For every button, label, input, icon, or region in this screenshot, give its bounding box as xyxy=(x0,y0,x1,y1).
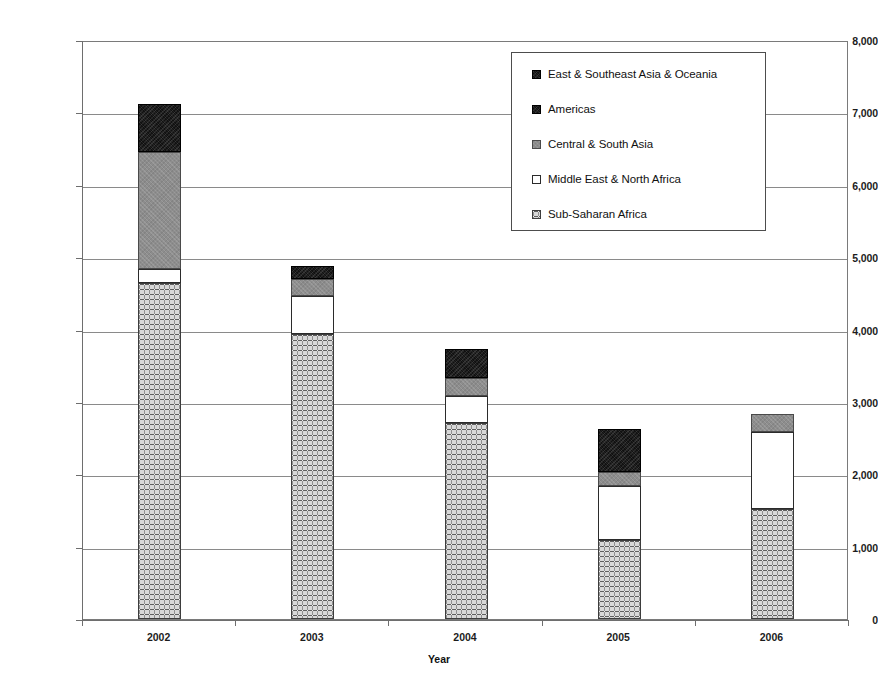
y-tick-label: 4,000 xyxy=(812,325,878,337)
y-tick-mark xyxy=(76,403,83,404)
legend-swatch-icon xyxy=(532,210,541,219)
y-tick-mark xyxy=(76,113,83,114)
x-tick-mark xyxy=(695,620,696,626)
x-tick-mark xyxy=(235,620,236,626)
y-tick-mark xyxy=(76,548,83,549)
y-tick-mark xyxy=(76,475,83,476)
legend: East & Southeast Asia & OceaniaAmericasC… xyxy=(511,52,766,231)
y-tick-label: 2,000 xyxy=(812,469,878,481)
legend-item[interactable]: Americas xyxy=(532,101,596,117)
bar-segment[interactable] xyxy=(598,429,641,472)
bar-segment[interactable] xyxy=(598,540,641,619)
x-tick-mark xyxy=(388,620,389,626)
bar-segment[interactable] xyxy=(445,396,488,423)
bar-segment[interactable] xyxy=(445,378,488,396)
bar-segment[interactable] xyxy=(445,349,488,378)
y-tick-mark xyxy=(76,258,83,259)
legend-label: Sub-Saharan Africa xyxy=(548,208,647,220)
legend-item[interactable]: East & Southeast Asia & Oceania xyxy=(532,66,717,82)
x-tick-mark xyxy=(848,620,849,626)
x-tick-label: 2002 xyxy=(99,631,219,643)
x-tick-label: 2003 xyxy=(252,631,372,643)
legend-label: Middle East & North Africa xyxy=(548,173,681,185)
bar-segment[interactable] xyxy=(138,152,181,269)
legend-item[interactable]: Sub-Saharan Africa xyxy=(532,206,647,222)
legend-item[interactable]: Middle East & North Africa xyxy=(532,171,681,187)
legend-item[interactable]: Central & South Asia xyxy=(532,136,653,152)
y-tick-label: 6,000 xyxy=(812,180,878,192)
bar-segment[interactable] xyxy=(598,472,641,486)
bar-segment[interactable] xyxy=(751,432,794,509)
bar-2003[interactable] xyxy=(291,40,334,619)
bar-segment[interactable] xyxy=(291,334,334,619)
bar-segment[interactable] xyxy=(138,283,181,619)
legend-swatch-icon xyxy=(532,140,541,149)
x-tick-label: 2006 xyxy=(711,631,831,643)
y-tick-mark xyxy=(76,331,83,332)
bar-segment[interactable] xyxy=(751,509,794,619)
x-tick-label: 2005 xyxy=(558,631,678,643)
x-tick-label: 2004 xyxy=(405,631,525,643)
bar-segment[interactable] xyxy=(291,279,334,296)
y-tick-label: 3,000 xyxy=(812,397,878,409)
y-tick-label: 7,000 xyxy=(812,107,878,119)
legend-swatch-icon xyxy=(532,105,541,114)
y-tick-label: 0 xyxy=(812,614,878,626)
legend-label: East & Southeast Asia & Oceania xyxy=(548,68,717,80)
y-tick-label: 8,000 xyxy=(812,35,878,47)
bar-segment[interactable] xyxy=(291,296,334,334)
stacked-bar-chart: 8,0007,0006,0005,0004,0003,0002,0001,000… xyxy=(0,0,878,674)
y-tick-mark xyxy=(76,41,83,42)
bar-segment[interactable] xyxy=(138,104,181,152)
bar-segment[interactable] xyxy=(751,414,794,432)
x-axis-line xyxy=(82,620,849,621)
bar-segment[interactable] xyxy=(291,266,334,279)
y-tick-label: 5,000 xyxy=(812,252,878,264)
x-tick-mark xyxy=(542,620,543,626)
x-axis-label: Year xyxy=(0,653,878,665)
legend-swatch-icon xyxy=(532,175,541,184)
y-tick-label: 1,000 xyxy=(812,542,878,554)
bar-segment[interactable] xyxy=(445,423,488,619)
x-tick-mark xyxy=(82,620,83,626)
bar-2002[interactable] xyxy=(138,40,181,619)
legend-label: Americas xyxy=(548,103,596,115)
bar-segment[interactable] xyxy=(138,269,181,283)
bar-2004[interactable] xyxy=(445,40,488,619)
legend-swatch-icon xyxy=(532,70,541,79)
bar-segment[interactable] xyxy=(598,486,641,540)
legend-label: Central & South Asia xyxy=(548,138,653,150)
y-tick-mark xyxy=(76,186,83,187)
